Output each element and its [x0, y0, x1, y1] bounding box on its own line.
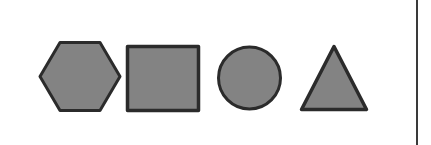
- figure-canvas: [0, 0, 431, 145]
- vertical-divider: [416, 0, 418, 145]
- circle-shape: [219, 47, 281, 109]
- square-shape: [128, 47, 199, 111]
- triangle-shape: [302, 47, 367, 110]
- shapes-group: [0, 0, 431, 145]
- hexagon-shape: [40, 43, 120, 111]
